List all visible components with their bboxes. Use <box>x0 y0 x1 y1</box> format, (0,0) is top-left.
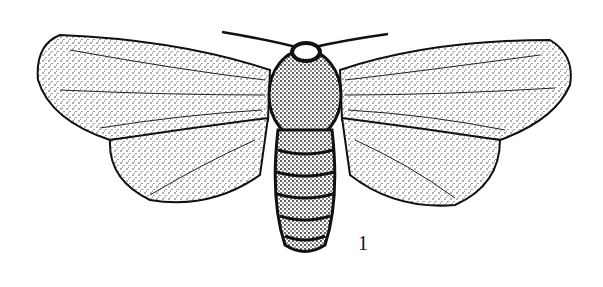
abdomen <box>275 130 335 252</box>
thorax <box>269 50 341 140</box>
moth-illustration: 1 <box>0 0 603 287</box>
head <box>292 43 320 61</box>
moth-drawing <box>0 0 603 287</box>
figure-number: 1 <box>358 232 368 255</box>
